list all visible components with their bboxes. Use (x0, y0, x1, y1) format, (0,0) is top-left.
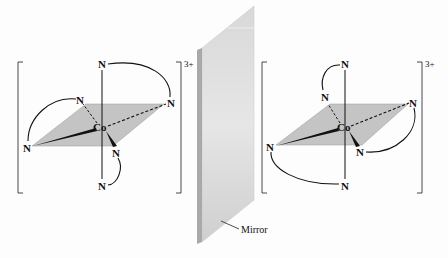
left-cobalt: Co (93, 121, 107, 133)
right-complex: 3+ N N N N N N Co (262, 58, 435, 193)
right-bracket-open (262, 62, 267, 193)
left-bracket-close (176, 62, 181, 193)
left-n-front: N (112, 147, 120, 159)
right-n-front: N (356, 146, 364, 158)
right-n-left: N (266, 141, 274, 153)
right-n-back: N (321, 91, 329, 103)
right-bracket-close (417, 62, 422, 193)
right-n-right: N (409, 97, 417, 109)
mirror-plane: Mirror (197, 6, 268, 244)
left-complex: 3+ N N N N N N Co (18, 58, 194, 193)
right-n-bottom: N (341, 180, 349, 192)
left-n-top: N (98, 58, 106, 70)
right-n-top: N (341, 58, 349, 70)
enantiomer-diagram: Mirror 3+ N N N N N N Co 3+ (0, 0, 448, 258)
left-charge: 3+ (184, 59, 194, 69)
left-n-left: N (23, 142, 31, 154)
left-n-right: N (167, 97, 175, 109)
left-n-bottom: N (98, 180, 106, 192)
left-bracket-open (18, 62, 23, 193)
right-cobalt: Co (337, 121, 351, 133)
mirror-label: Mirror (241, 224, 268, 235)
left-n-back: N (76, 94, 84, 106)
right-charge: 3+ (425, 59, 435, 69)
